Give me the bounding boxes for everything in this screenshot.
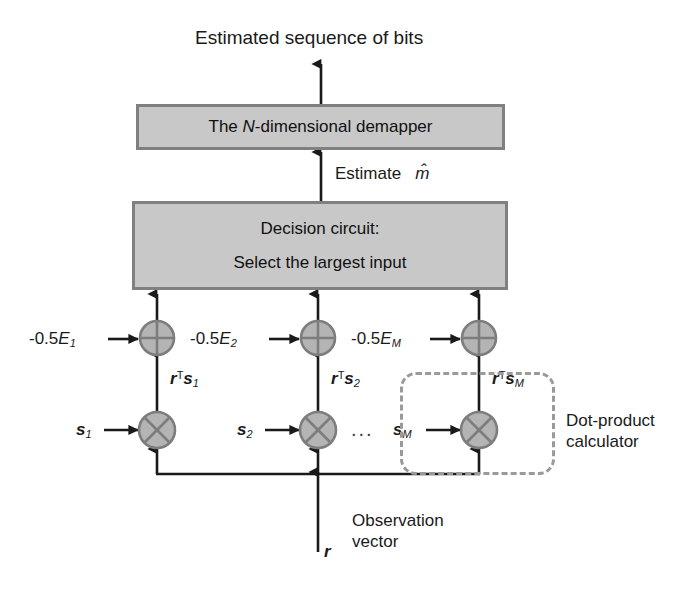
bias-2-prefix: -0.5 — [190, 329, 219, 348]
observation-caption-line-1: Observation — [352, 510, 444, 531]
bias-2-symbol: E — [219, 329, 230, 348]
bias-label-3: -0.5EM — [351, 328, 401, 351]
dot-2-index: 2 — [354, 377, 360, 389]
dot-product-caption-line-1: Dot-product — [566, 410, 655, 431]
dot-product-label-2: rTs2 — [331, 368, 360, 391]
branch-ellipsis: ... — [351, 418, 374, 441]
bias-1-symbol: E — [58, 329, 69, 348]
signal-1-index: 1 — [85, 428, 91, 440]
bias-3-index: M — [392, 337, 401, 349]
bias-2-index: 2 — [231, 337, 237, 349]
bias-1-prefix: -0.5 — [29, 329, 58, 348]
demapper-dimension-symbol: N — [243, 117, 255, 136]
estimate-label: Estimatem̂ — [335, 163, 429, 184]
dot-1-s: s — [183, 369, 192, 388]
bias-1-index: 1 — [70, 337, 76, 349]
dot-product-calculator-group — [400, 372, 555, 475]
page-title: Estimated sequence of bits — [195, 26, 423, 50]
bias-label-2: -0.5E2 — [190, 328, 237, 351]
adder-node-1 — [140, 321, 174, 355]
signal-label-2: s2 — [237, 419, 253, 442]
dot-2-r: r — [331, 369, 338, 388]
multiplier-node-1 — [139, 412, 175, 448]
connector-layer — [0, 0, 700, 589]
estimate-symbol: m̂ — [415, 164, 429, 183]
decision-box-line-1: Decision circuit: — [260, 219, 379, 239]
dot-product-label-1: rTs1 — [170, 368, 199, 391]
dot-product-caption-line-2: calculator — [566, 431, 655, 452]
bias-3-prefix: -0.5 — [351, 329, 380, 348]
demapper-box-label: The N-dimensional demapper — [209, 117, 433, 137]
demapper-prefix: The — [209, 117, 243, 136]
multiplier-node-2 — [300, 412, 336, 448]
observation-vector-symbol: r — [324, 541, 331, 562]
signal-2-index: 2 — [246, 428, 252, 440]
dot-product-caption: Dot-product calculator — [566, 410, 655, 453]
estimate-label-text: Estimate — [335, 164, 401, 183]
bias-3-symbol: E — [380, 329, 391, 348]
adder-node-2 — [301, 321, 335, 355]
signal-label-1: s1 — [76, 419, 92, 442]
dot-1-r: r — [170, 369, 177, 388]
bias-label-1: -0.5E1 — [29, 328, 76, 351]
observation-vector-caption: Observation vector — [352, 510, 444, 553]
observation-caption-line-2: vector — [352, 531, 444, 552]
diagram-canvas: Estimated sequence of bits The N-dimensi… — [0, 0, 700, 589]
demapper-suffix: -dimensional demapper — [255, 117, 433, 136]
decision-circuit-box[interactable]: Decision circuit: Select the largest inp… — [132, 201, 508, 290]
dot-2-s: s — [344, 369, 353, 388]
decision-box-line-2: Select the largest input — [234, 253, 407, 273]
adder-node-3 — [462, 321, 496, 355]
demapper-box[interactable]: The N-dimensional demapper — [136, 104, 505, 150]
dot-1-index: 1 — [193, 377, 199, 389]
